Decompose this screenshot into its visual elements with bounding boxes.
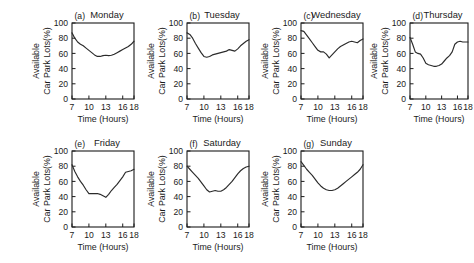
x-tick-label: 10 — [84, 230, 94, 240]
panel-tag: (d) — [413, 11, 424, 21]
y-axis-title-line2: Car Park Lots(%) — [42, 155, 52, 223]
x-tick-label: 16 — [347, 102, 357, 112]
x-tick-label: 7 — [70, 230, 75, 240]
panel-tag: (b) — [190, 11, 201, 21]
x-tick-label: 13 — [330, 230, 340, 240]
y-tick-label: 40 — [287, 192, 297, 202]
y-tick-label: 80 — [287, 161, 297, 171]
y-tick-label: 100 — [169, 18, 184, 28]
data-series-line — [72, 165, 134, 198]
plot-frame — [187, 151, 249, 227]
x-axis-title: Time (Hours) — [414, 114, 465, 124]
x-tick-label: 13 — [216, 230, 226, 240]
x-tick-label: 7 — [408, 102, 413, 112]
x-tick-label: 7 — [185, 102, 190, 112]
x-axis-title: Time (Hours) — [193, 242, 244, 252]
plot-frame — [301, 151, 363, 227]
x-tick-label: 18 — [129, 102, 139, 112]
y-tick-label: 0 — [178, 222, 183, 232]
panel-title: Thursday — [423, 9, 462, 20]
y-tick-label: 40 — [396, 64, 406, 74]
panel-title: Sunday — [320, 137, 352, 148]
x-tick-label: 18 — [129, 230, 139, 240]
y-tick-label: 20 — [396, 79, 406, 89]
y-tick-label: 60 — [173, 49, 183, 59]
data-series-line — [72, 33, 134, 57]
x-tick-label: 7 — [299, 230, 304, 240]
x-tick-label: 10 — [84, 102, 94, 112]
y-tick-label: 60 — [287, 49, 297, 59]
x-axis-title: Time (Hours) — [78, 242, 129, 252]
x-tick-label: 10 — [313, 102, 323, 112]
x-tick-label: 13 — [101, 230, 111, 240]
y-tick-label: 80 — [396, 33, 406, 43]
y-tick-label: 0 — [401, 94, 406, 104]
chart-panel-thursday: 020406080100710131618(d)ThursdayTime (Ho… — [366, 6, 474, 132]
x-axis-title: Time (Hours) — [307, 114, 358, 124]
x-tick-label: 13 — [437, 102, 447, 112]
y-tick-label: 40 — [173, 192, 183, 202]
y-tick-label: 20 — [173, 79, 183, 89]
y-tick-label: 60 — [173, 177, 183, 187]
chart-panel-friday: 020406080100710131618(e)FridayTime (Hour… — [28, 134, 140, 260]
y-tick-label: 40 — [58, 64, 68, 74]
x-tick-label: 16 — [347, 230, 357, 240]
y-axis-title-line1: Available — [31, 171, 41, 207]
panel-title: Wednesday — [311, 9, 361, 20]
x-tick-label: 18 — [244, 102, 254, 112]
x-axis-title: Time (Hours) — [78, 114, 129, 124]
y-tick-label: 0 — [178, 94, 183, 104]
y-tick-label: 100 — [169, 146, 184, 156]
chart-panel-sunday: 020406080100710131618(g)SundayTime (Hour… — [257, 134, 369, 260]
chart-panel-wednesday: 020406080100710131618(c)WednesdayTime (H… — [257, 6, 369, 132]
x-tick-label: 10 — [199, 230, 209, 240]
x-tick-label: 16 — [118, 230, 128, 240]
y-axis-title-line2: Car Park Lots(%) — [380, 27, 390, 95]
plot-frame — [72, 151, 134, 227]
x-axis-title: Time (Hours) — [307, 242, 358, 252]
panel-tag: (g) — [304, 139, 315, 149]
y-tick-label: 20 — [58, 79, 68, 89]
figure-canvas: 020406080100710131618(a)MondayTime (Hour… — [0, 0, 474, 263]
y-axis-title-line2: Car Park Lots(%) — [157, 27, 167, 95]
y-tick-label: 0 — [63, 222, 68, 232]
panel-title: Saturday — [203, 137, 241, 148]
x-tick-label: 10 — [421, 102, 431, 112]
x-tick-label: 18 — [358, 230, 368, 240]
data-series-line — [410, 37, 468, 66]
y-tick-label: 100 — [392, 18, 407, 28]
panel-title: Friday — [94, 137, 120, 148]
x-tick-label: 7 — [185, 230, 190, 240]
y-axis-title-line1: Available — [369, 43, 379, 79]
y-axis-title-line1: Available — [260, 171, 270, 207]
plot-frame — [72, 23, 134, 99]
chart-panel-monday: 020406080100710131618(a)MondayTime (Hour… — [28, 6, 140, 132]
y-tick-label: 20 — [287, 207, 297, 217]
y-axis-title-line1: Available — [260, 43, 270, 79]
panel-title: Monday — [90, 9, 124, 20]
x-tick-label: 10 — [313, 230, 323, 240]
y-axis-title-line2: Car Park Lots(%) — [271, 27, 281, 95]
y-axis-title-line1: Available — [31, 43, 41, 79]
y-tick-label: 40 — [287, 64, 297, 74]
data-series-line — [301, 162, 363, 191]
y-tick-label: 100 — [283, 18, 298, 28]
y-tick-label: 0 — [292, 94, 297, 104]
y-axis-title-line2: Car Park Lots(%) — [42, 27, 52, 95]
chart-panel-saturday: 020406080100710131618(f)SaturdayTime (Ho… — [143, 134, 255, 260]
y-tick-label: 80 — [173, 161, 183, 171]
panel-tag: (f) — [190, 139, 198, 149]
y-tick-label: 100 — [283, 146, 298, 156]
y-tick-label: 60 — [58, 49, 68, 59]
x-axis-title: Time (Hours) — [193, 114, 244, 124]
x-tick-label: 7 — [299, 102, 304, 112]
y-tick-label: 60 — [287, 177, 297, 187]
plot-frame — [187, 23, 249, 99]
x-tick-label: 16 — [233, 230, 243, 240]
x-tick-label: 10 — [199, 102, 209, 112]
y-tick-label: 100 — [54, 18, 69, 28]
y-tick-label: 60 — [58, 177, 68, 187]
y-tick-label: 0 — [292, 222, 297, 232]
x-tick-label: 18 — [244, 230, 254, 240]
y-axis-title-line1: Available — [146, 171, 156, 207]
